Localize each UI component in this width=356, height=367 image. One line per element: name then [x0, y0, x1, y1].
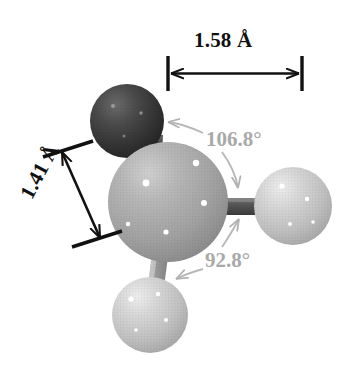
bond-angle-label-upper: 106.8°	[206, 129, 262, 150]
molecule-canvas	[0, 0, 356, 367]
atom-highlight	[156, 292, 160, 296]
atom-highlight	[311, 220, 315, 224]
atom-highlight	[279, 183, 284, 188]
atom-bottom	[112, 277, 188, 353]
atom-highlight	[134, 328, 138, 332]
atom-highlight	[139, 111, 142, 114]
bond-length-label-top: 1.58 Å	[194, 30, 252, 51]
bond-angle-label-lower: 92.8°	[205, 250, 250, 271]
atom-highlight	[143, 180, 150, 187]
atom-central	[108, 142, 228, 262]
atom-highlight	[111, 104, 115, 108]
atom-highlight	[123, 135, 126, 138]
atom-highlight	[163, 229, 168, 234]
atom-highlight	[305, 197, 309, 201]
molecule-figure: 1.58 Å 1.41 Å 106.8° 92.8°	[0, 0, 356, 367]
atom-highlight	[126, 222, 130, 226]
atom-highlight	[164, 318, 168, 322]
atom-highlight	[128, 296, 133, 301]
atom-highlight	[288, 222, 292, 226]
atom-right	[254, 167, 332, 245]
dimension-top-158	[168, 56, 302, 91]
atom-highlight	[193, 160, 199, 166]
atom-highlight	[201, 200, 207, 206]
